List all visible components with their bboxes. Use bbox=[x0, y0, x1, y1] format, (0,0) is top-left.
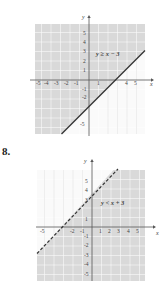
svg-text:2: 2 bbox=[108, 228, 111, 234]
svg-text:-2: -2 bbox=[82, 94, 87, 100]
svg-text:5: 5 bbox=[85, 178, 88, 184]
svg-text:-5: -5 bbox=[40, 228, 45, 234]
svg-text:5: 5 bbox=[83, 30, 86, 36]
svg-text:-3: -3 bbox=[84, 252, 89, 258]
svg-text:1: 1 bbox=[99, 228, 102, 234]
y-axis-label: y bbox=[83, 158, 87, 164]
svg-text:4: 4 bbox=[127, 228, 130, 234]
svg-text:4: 4 bbox=[85, 187, 88, 193]
svg-text:-4: -4 bbox=[84, 261, 89, 267]
svg-text:5: 5 bbox=[134, 80, 137, 86]
svg-text:-1: -1 bbox=[74, 80, 79, 86]
graph-y-ge-x-minus-3: y x -5-4-3 -2-11 45 543 21-1 -2-5 y ≥ x … bbox=[0, 0, 166, 140]
inequality-label: y < x + 3 bbox=[100, 199, 125, 206]
svg-text:3: 3 bbox=[117, 228, 120, 234]
svg-text:1: 1 bbox=[83, 67, 86, 73]
inequality-label: y ≥ x − 3 bbox=[95, 50, 120, 57]
svg-text:-5: -5 bbox=[80, 121, 85, 127]
svg-text:-1: -1 bbox=[84, 233, 89, 239]
y-axis-label: y bbox=[81, 14, 85, 20]
x-axis-label: x bbox=[149, 81, 153, 87]
graph-y-lt-x-plus-3: y x -5-2-1 123 45 543 1-1-2 -3-4-5 y < x… bbox=[0, 140, 166, 281]
svg-text:-4: -4 bbox=[44, 80, 49, 86]
coordinate-plane-1: y x -5-4-3 -2-11 45 543 21-1 -2-5 y ≥ x … bbox=[0, 0, 166, 140]
svg-text:2: 2 bbox=[83, 58, 86, 64]
svg-text:-3: -3 bbox=[54, 80, 59, 86]
svg-text:-5: -5 bbox=[36, 80, 41, 86]
svg-text:5: 5 bbox=[136, 228, 139, 234]
svg-text:-2: -2 bbox=[70, 228, 75, 234]
svg-text:4: 4 bbox=[83, 39, 86, 45]
svg-text:3: 3 bbox=[85, 197, 88, 203]
svg-text:-2: -2 bbox=[64, 80, 69, 86]
svg-text:4: 4 bbox=[125, 80, 128, 86]
svg-text:-5: -5 bbox=[84, 271, 89, 277]
svg-text:-1: -1 bbox=[82, 86, 87, 92]
svg-text:-2: -2 bbox=[84, 242, 89, 248]
coordinate-plane-2: y x -5-2-1 123 45 543 1-1-2 -3-4-5 y < x… bbox=[0, 140, 166, 281]
svg-text:1: 1 bbox=[85, 216, 88, 222]
svg-text:1: 1 bbox=[97, 80, 100, 86]
x-axis-label: x bbox=[155, 230, 159, 236]
svg-text:3: 3 bbox=[83, 48, 86, 54]
